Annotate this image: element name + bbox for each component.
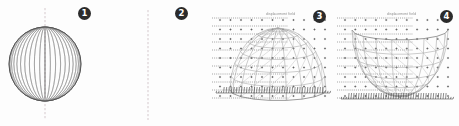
panel-2-drawing xyxy=(105,0,210,126)
panel-badge-1: 1 xyxy=(78,7,91,20)
panel-3-dome-mesh: displacement field 3 xyxy=(210,0,335,126)
bowl-mesh-lines xyxy=(352,30,448,98)
panel-2-sphere-latitudes: 2 xyxy=(105,0,210,126)
left-ruling-lines xyxy=(212,18,288,98)
panel-1-drawing xyxy=(0,0,105,126)
four-panel-figure: Four-panel geometry figure: spheres and … xyxy=(0,0,459,126)
panel-4-bowl-mesh: displacement field 4 xyxy=(335,0,459,126)
sample-grid-markers xyxy=(219,19,326,97)
panel-4-annotation: displacement field xyxy=(387,12,416,16)
panel-badge-2: 2 xyxy=(175,7,188,20)
panel-1-sphere-meridians: 1 xyxy=(0,0,105,126)
panel-badge-3: 3 xyxy=(313,10,326,23)
panel-3-annotation: displacement field xyxy=(266,12,295,16)
panel-badge-4: 4 xyxy=(440,10,453,23)
